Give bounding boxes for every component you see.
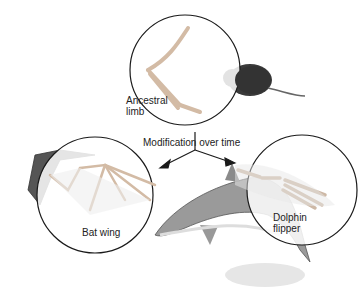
ancestral-label-line1: Ancestral <box>126 95 168 106</box>
bat-wing-label: Bat wing <box>82 227 120 238</box>
homology-diagram: Ancestral limb Modification over time Ba… <box>0 0 364 295</box>
dolphin-label-line2: flipper <box>273 223 307 234</box>
modification-label: Modification over time <box>143 137 240 148</box>
ancestral-limb-label: Ancestral limb <box>126 95 168 117</box>
dolphin-label-line1: Dolphin <box>273 212 307 223</box>
dolphin-flipper-label: Dolphin flipper <box>273 212 307 234</box>
ancestral-label-line2: limb <box>126 106 168 117</box>
